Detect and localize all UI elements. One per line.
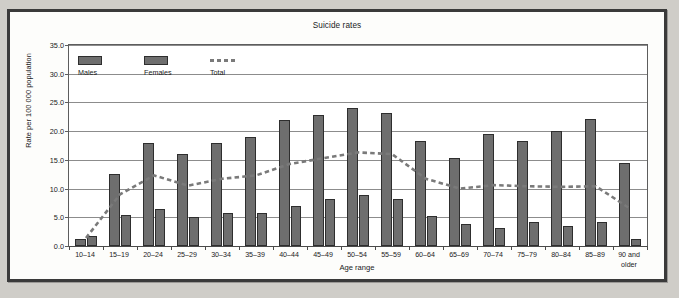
figure-frame: Suicide rates Rate per 100 000 populatio…: [7, 9, 667, 282]
x-tick-mark: [137, 246, 138, 250]
x-tick-label: 75–79: [510, 251, 544, 261]
legend-swatch-icon: [144, 56, 168, 65]
x-tick-label: 85–89: [578, 251, 612, 261]
legend-label: Total: [210, 68, 236, 77]
x-tick-label: 60–64: [408, 251, 442, 261]
x-tick-mark: [511, 246, 512, 250]
x-tick-mark: [545, 246, 546, 250]
y-tick-label: 15.0: [50, 155, 64, 164]
x-tick-label: 55–59: [374, 251, 408, 261]
chart-title: Suicide rates: [10, 21, 664, 30]
x-tick-label: 15–19: [102, 251, 136, 261]
x-tick-mark: [103, 246, 104, 250]
x-tick-mark: [477, 246, 478, 250]
x-tick-mark: [171, 246, 172, 250]
x-tick-label: 40–44: [272, 251, 306, 261]
x-axis-title: Age range: [68, 263, 646, 272]
legend-item-males: Males: [78, 56, 102, 77]
y-tick-label: 30.0: [50, 69, 64, 78]
x-tick-label: 50–54: [340, 251, 374, 261]
y-axis-title: Rate per 100 000 population: [24, 21, 33, 181]
x-tick-label: 30–34: [204, 251, 238, 261]
legend-label: Females: [144, 68, 172, 77]
x-tick-label: 25–29: [170, 251, 204, 261]
x-tick-mark: [579, 246, 580, 250]
x-tick-label: 80–84: [544, 251, 578, 261]
y-tick-label: 35.0: [50, 41, 64, 50]
x-tick-mark: [69, 246, 70, 250]
y-tick-label: 0.0: [54, 242, 64, 251]
x-tick-label: 20–24: [136, 251, 170, 261]
chart-figure: Suicide rates Rate per 100 000 populatio…: [10, 12, 664, 279]
legend-swatch-icon: [78, 56, 102, 65]
y-tick-label: 25.0: [50, 98, 64, 107]
x-tick-mark: [307, 246, 308, 250]
x-tick-label: 10–14: [68, 251, 102, 261]
legend-dashed-line-icon: [210, 56, 236, 65]
legend-item-total: Total: [210, 56, 236, 77]
x-tick-mark: [239, 246, 240, 250]
x-tick-label: 65–69: [442, 251, 476, 261]
x-tick-mark: [273, 246, 274, 250]
page-background: Suicide rates Rate per 100 000 populatio…: [0, 0, 679, 298]
legend-item-females: Females: [144, 56, 172, 77]
x-tick-label: 35–39: [238, 251, 272, 261]
x-tick-mark: [647, 246, 648, 250]
x-tick-label: 70–74: [476, 251, 510, 261]
y-tick-label: 20.0: [50, 127, 64, 136]
legend-label: Males: [78, 68, 102, 77]
y-tick-label: 10.0: [50, 184, 64, 193]
x-tick-mark: [341, 246, 342, 250]
x-tick-mark: [205, 246, 206, 250]
x-tick-mark: [613, 246, 614, 250]
x-tick-label: 45–49: [306, 251, 340, 261]
y-tick-label: 5.0: [54, 213, 64, 222]
x-tick-mark: [375, 246, 376, 250]
x-tick-mark: [409, 246, 410, 250]
x-tick-mark: [443, 246, 444, 250]
